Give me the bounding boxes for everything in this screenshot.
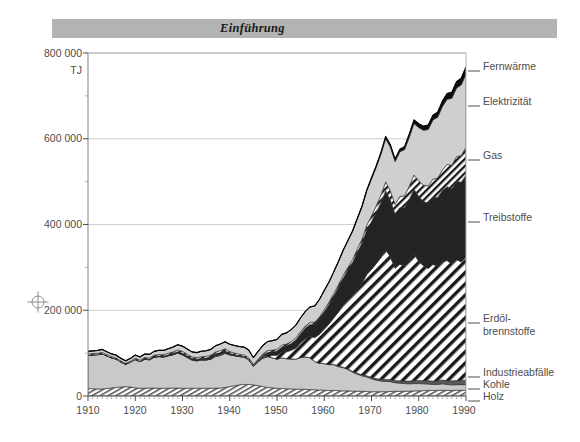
x-tick-label-1940: 1940 [204,404,254,416]
legend-label-gas: Gas [483,149,502,161]
legend-label-kohle: Kohle [483,378,510,390]
legend-label-erdoel-line1: Erdöl- [483,312,511,324]
x-tick-label-1980: 1980 [392,404,442,416]
legend-leader-lines [468,71,480,401]
x-tick-label-1930: 1930 [157,404,207,416]
legend-label-industrieabfaelle: Industrieabfälle [483,366,554,378]
x-tick-label-1990: 1990 [439,404,489,416]
y-tick-label-600000: 600 000 [22,132,82,144]
y-axis-unit-label: TJ [22,64,82,76]
x-axis-ticks [88,396,466,401]
y-tick-label-400000: 400 000 [22,218,82,230]
y-axis-ticks [83,53,88,396]
legend-label-treibstoffe: Treibstoffe [483,211,532,223]
x-tick-label-1910: 1910 [63,404,113,416]
legend-label-erdoel-line2: brennstoffe [483,325,535,337]
legend-label-fernwaerme: Fernwärme [483,60,536,72]
y-tick-label-800000: 800 000 [22,47,82,59]
legend-label-elektrizitaet: Elektrizität [483,95,531,107]
page-root: Einführung [0,0,580,442]
y-tick-label-0: 0 [22,390,82,402]
x-tick-label-1960: 1960 [298,404,348,416]
legend-label-holz: Holz [483,390,504,402]
x-tick-label-1970: 1970 [345,404,395,416]
y-tick-label-200000: 200 000 [22,304,82,316]
x-tick-label-1950: 1950 [251,404,301,416]
x-tick-label-1920: 1920 [110,404,160,416]
